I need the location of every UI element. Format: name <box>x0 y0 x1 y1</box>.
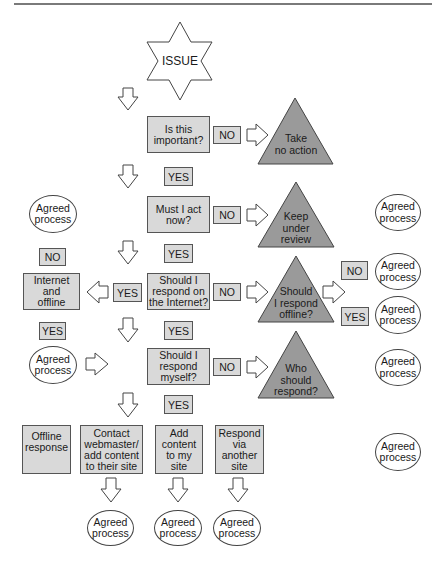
label-yes: YES <box>164 244 193 263</box>
decision-important: Is this important? <box>147 116 210 153</box>
arrow-down-icon <box>228 478 248 502</box>
outcome-who-should-respond: Who should respond? <box>262 363 330 398</box>
decision-internet: Should I respond on the Internet? <box>147 273 210 310</box>
agreed-process: Agreed process <box>87 510 134 546</box>
label-no: NO <box>341 261 368 280</box>
action-add-content: Add content to my site <box>155 425 203 474</box>
agreed-process: Agreed process <box>29 195 77 233</box>
label-yes: YES <box>113 283 142 302</box>
label-yes: YES <box>39 322 66 340</box>
agreed-process: Agreed process <box>375 194 421 231</box>
label-no: NO <box>213 206 241 224</box>
issue-label: ISSUE <box>152 54 208 68</box>
box-internet-and-offline: Internet and offline <box>23 273 80 310</box>
agreed-process: Agreed process <box>375 253 421 290</box>
outcome-respond-offline: Should I respond offline? <box>262 286 330 321</box>
arrow-down-icon <box>168 478 188 502</box>
outcome-keep-under-review: Keep under review <box>262 211 330 246</box>
flowchart: ISSUE Is this important? Must I act now?… <box>0 0 446 569</box>
agreed-process: Agreed process <box>375 349 421 386</box>
decision-act-now: Must I act now? <box>147 196 210 233</box>
arrow-down-icon <box>118 393 138 417</box>
arrow-right-icon <box>86 353 108 375</box>
agreed-process: Agreed process <box>29 346 77 384</box>
label-yes: YES <box>164 167 193 186</box>
decision-myself: Should I respond myself? <box>147 348 210 385</box>
label-yes: YES <box>341 307 369 326</box>
agreed-process: Agreed process <box>213 510 261 546</box>
arrow-down-icon <box>118 88 138 110</box>
label-yes: YES <box>164 321 193 340</box>
arrow-down-icon <box>118 241 138 264</box>
arrow-down-icon <box>118 165 138 188</box>
arrow-down-icon <box>118 318 138 342</box>
label-no: NO <box>213 126 241 144</box>
action-offline-response: Offline response <box>22 425 71 474</box>
action-respond-another-site: Respond via another site <box>215 425 264 474</box>
agreed-process: Agreed process <box>375 296 421 334</box>
label-no: NO <box>213 358 241 376</box>
action-contact-webmaster: Contact webmaster/ add content to their … <box>80 425 143 474</box>
label-no: NO <box>213 283 241 301</box>
label-no: NO <box>39 248 66 266</box>
label-yes: YES <box>164 395 193 414</box>
agreed-process: Agreed process <box>375 433 421 471</box>
arrow-left-icon <box>87 281 108 303</box>
outcome-take-no-action: Take no action <box>262 133 330 156</box>
arrow-down-icon <box>101 478 121 502</box>
agreed-process: Agreed process <box>154 510 202 546</box>
